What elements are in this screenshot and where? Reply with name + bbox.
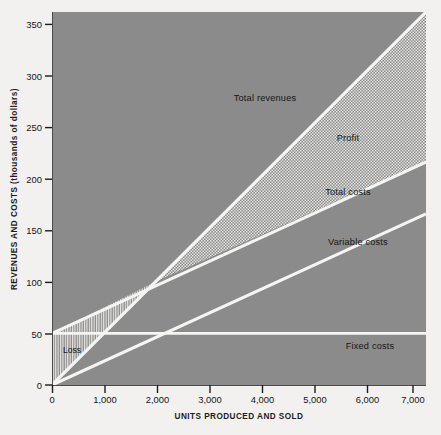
y-tick-label-300: 300 [26,71,42,82]
y-tick-label-200: 200 [26,174,42,185]
y-tick-label-50: 50 [32,329,42,340]
y-tick-label-150: 150 [26,225,42,236]
break-even-chart-figure: 350 300 250 200 150 100 50 0 REVENUES AN… [0,0,441,435]
x-tick-label-6000: 6,000 [356,394,379,405]
x-tick-label-2000: 2,000 [146,394,169,405]
x-axis-title: UNITS PRODUCED AND SOLD [175,412,304,421]
fixed-costs-label: Fixed costs [346,341,395,351]
y-tick-label-250: 250 [26,122,42,133]
y-tick-label-350: 350 [26,19,42,30]
x-tick-label-0: 0 [49,394,54,405]
x-tick-label-5000: 5,000 [303,394,326,405]
profit-label: Profit [337,133,360,143]
total-costs-label: Total costs [325,187,371,197]
x-tick-label-1000: 1,000 [93,394,116,405]
y-tick-label-0: 0 [37,380,42,391]
y-tick-label-100: 100 [26,277,42,288]
variable-costs-label: Variable costs [328,237,388,247]
x-tick-label-3000: 3,000 [198,394,221,405]
x-tick-label-7000: 7,000 [401,394,424,405]
y-axis-title: REVENUES AND COSTS (thousands of dollars… [10,88,19,290]
total-revenues-label: Total revenues [234,93,297,103]
loss-label: Loss [63,345,81,355]
x-tick-label-4000: 4,000 [251,394,274,405]
